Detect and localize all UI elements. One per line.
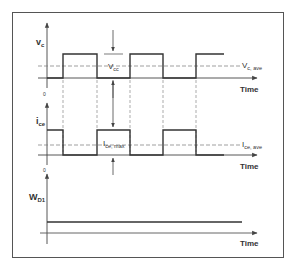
plot-ice: ice Ice, max Ice, ave Time 0 <box>36 80 262 175</box>
wd1-y-label: WD1 <box>29 192 46 203</box>
ice-zero-label: 0 <box>43 167 46 173</box>
vc-time-label: Time <box>240 85 259 94</box>
vcc-label: Vcc <box>108 62 119 72</box>
plot-wd1: WD1 Time <box>29 174 259 248</box>
vc-zero-label: 0 <box>43 91 46 97</box>
plot-vc: vc Vcc Vc, ave Time 0 <box>36 23 262 98</box>
diagram-frame <box>13 13 284 258</box>
vc-average-label: Vc, ave <box>242 61 262 71</box>
switching-waveform-diagram: vc Vcc Vc, ave Time 0 ice Ice, max Ice, … <box>0 0 286 270</box>
wd1-time-label: Time <box>240 239 259 248</box>
ice-average-label: Ice, ave <box>242 140 262 150</box>
ice-y-label: ice <box>36 116 46 127</box>
ice-waveform <box>47 130 224 155</box>
ice-max-label: Ice, max <box>103 139 125 149</box>
ice-time-label: Time <box>240 162 259 171</box>
vc-y-label: vc <box>36 37 45 48</box>
